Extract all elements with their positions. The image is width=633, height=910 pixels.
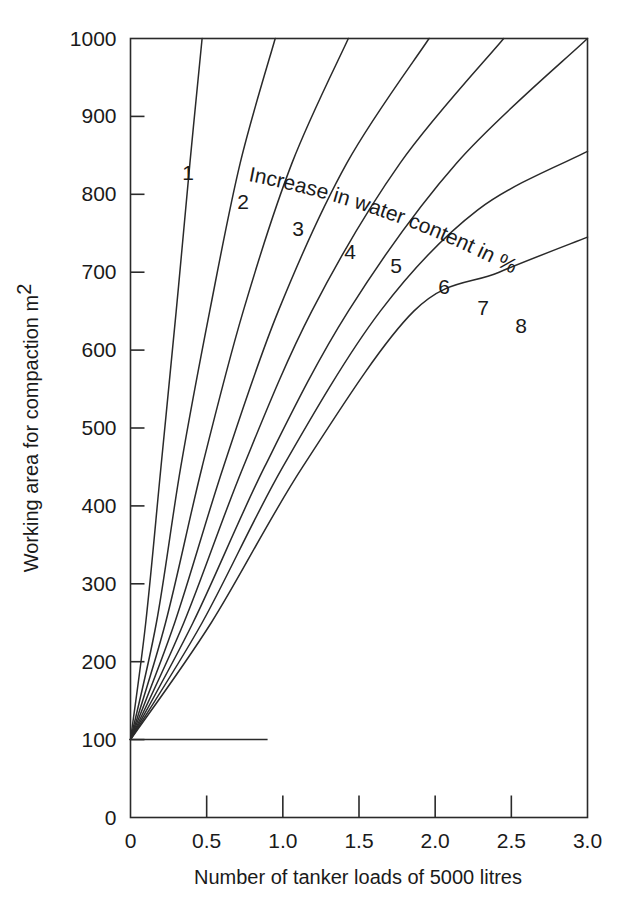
y-tick-label: 600	[81, 338, 116, 361]
y-axis-title: Working area for compaction m2	[13, 284, 42, 573]
curve-label-6: 6	[438, 275, 450, 298]
curve-label-7: 7	[477, 296, 489, 319]
x-axis-title: Number of tanker loads of 5000 litres	[194, 866, 522, 888]
curve-label-4: 4	[344, 240, 356, 263]
y-axis-title-text: Working area for compaction m	[20, 295, 42, 573]
curve-series-7	[131, 151, 588, 739]
y-tick-label: 500	[81, 416, 116, 439]
svg-text:Working area for compaction m2: Working area for compaction m2	[13, 284, 42, 573]
curve-series-4	[131, 39, 430, 740]
curve-label-5: 5	[390, 254, 402, 277]
curve-series-1	[131, 39, 203, 740]
curve-label-1: 1	[182, 161, 194, 184]
y-axis-tick-labels: 01002003004005006007008009001000	[70, 27, 117, 829]
y-tick-label: 400	[81, 494, 116, 517]
y-tick-label: 700	[81, 260, 116, 283]
y-tick-label: 0	[105, 806, 117, 829]
curve-series-3	[131, 39, 349, 740]
chart-container: 01002003004005006007008009001000 00.51.0…	[0, 0, 633, 910]
y-tick-label: 200	[81, 650, 116, 673]
x-axis-tick-labels: 00.51.01.52.02.53.0	[125, 829, 602, 852]
x-tick-label: 3.0	[573, 829, 602, 852]
y-tick-label: 300	[81, 572, 116, 595]
y-axis-title-superscript: 2	[13, 284, 35, 295]
chart-figure: 01002003004005006007008009001000 00.51.0…	[0, 0, 633, 910]
x-tick-label: 1.0	[268, 829, 297, 852]
y-tick-label: 100	[81, 728, 116, 751]
annotation-increase-in-water-content: Increase in water content in %	[247, 162, 521, 277]
curve-label-3: 3	[292, 217, 304, 240]
x-axis-ticks	[207, 796, 512, 818]
x-tick-label: 2.5	[497, 829, 526, 852]
curve-label-8: 8	[515, 314, 527, 337]
y-tick-label: 1000	[70, 27, 117, 50]
x-tick-label: 0	[125, 829, 137, 852]
x-tick-label: 0.5	[192, 829, 221, 852]
x-tick-label: 2.0	[421, 829, 450, 852]
y-tick-label: 900	[81, 104, 116, 127]
curve-series-8	[131, 237, 588, 739]
data-curves	[131, 39, 588, 740]
y-tick-label: 800	[81, 182, 116, 205]
plot-frame	[131, 39, 588, 818]
curve-label-2: 2	[237, 190, 249, 213]
x-tick-label: 1.5	[344, 829, 373, 852]
